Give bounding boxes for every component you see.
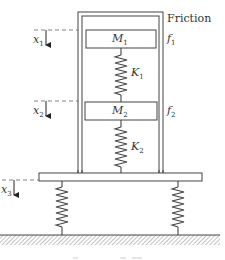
- k1-symbol: K: [131, 66, 139, 79]
- spring-k2-label: K2: [131, 141, 144, 155]
- spring-k1: [115, 48, 127, 102]
- displacement-x2-label: x2: [33, 105, 44, 119]
- x3-subscript: 3: [7, 190, 11, 198]
- k2-symbol: K: [131, 140, 139, 153]
- mass-m2-label: M2: [112, 105, 128, 119]
- friction-label: Friction: [167, 13, 211, 24]
- displacement-x3-label: x3: [1, 184, 12, 198]
- x2-subscript: 2: [39, 111, 43, 119]
- m1-symbol: M: [112, 32, 123, 45]
- m2-subscript: 2: [123, 111, 127, 119]
- spring-k1-label: K1: [131, 67, 144, 81]
- k1-subscript: 1: [139, 73, 143, 81]
- friction-f1-label: f1: [167, 33, 176, 47]
- friction-f2-label: f2: [167, 105, 176, 119]
- f2-subscript: 2: [171, 111, 175, 119]
- displacement-x1-label: x1: [33, 34, 44, 48]
- support-spring-left: [56, 181, 68, 235]
- base-platform: [39, 173, 202, 181]
- ground: [0, 235, 220, 245]
- mass-m1-label: M1: [112, 33, 128, 47]
- spring-k2: [115, 120, 127, 173]
- k2-subscript: 2: [139, 147, 143, 155]
- x1-subscript: 1: [39, 40, 43, 48]
- m1-subscript: 1: [123, 39, 127, 47]
- diagram-canvas: Friction M1 M2 K1 K2 f1 f2 x1 x2 x3: [0, 0, 225, 260]
- support-spring-right: [172, 181, 184, 235]
- m2-symbol: M: [112, 104, 123, 117]
- f1-subscript: 1: [171, 39, 175, 47]
